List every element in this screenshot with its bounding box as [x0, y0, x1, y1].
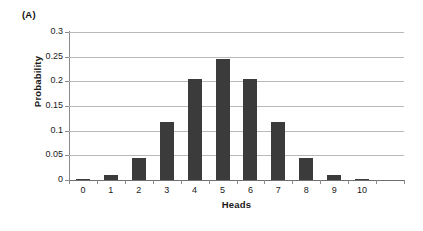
bar — [188, 79, 202, 180]
x-axis-tick — [181, 180, 182, 184]
x-axis-tick-label: 7 — [276, 185, 281, 195]
x-axis-tick — [125, 180, 126, 184]
x-axis-title: Heads — [69, 199, 404, 210]
y-axis-tick-label: 0.3 — [50, 26, 63, 36]
x-axis-tick — [209, 180, 210, 184]
bar-slot — [181, 32, 209, 180]
x-axis-tick — [404, 180, 405, 184]
x-axis-tick — [348, 180, 349, 184]
y-axis-tick-labels: 00.050.10.150.20.250.3 — [0, 0, 63, 231]
bar-slot — [376, 32, 404, 180]
bar — [132, 158, 146, 180]
x-axis-tick-label: 6 — [248, 185, 253, 195]
y-axis-tick — [65, 131, 69, 132]
bar-slot — [348, 32, 376, 180]
plot-area — [69, 32, 404, 180]
y-axis-tick-label: 0 — [58, 174, 63, 184]
y-axis-tick — [65, 180, 69, 181]
bar — [216, 59, 230, 180]
bar — [243, 79, 257, 180]
x-axis-tick-label: 2 — [136, 185, 141, 195]
x-axis-tick-label: 1 — [108, 185, 113, 195]
x-axis-tick — [376, 180, 377, 184]
y-axis-tick-label: 0.2 — [50, 75, 63, 85]
figure-panel-a: (A) Probability 00.050.10.150.20.250.3 0… — [0, 0, 423, 231]
bar — [160, 122, 174, 180]
x-axis-tick — [237, 180, 238, 184]
bar-slot — [320, 32, 348, 180]
bar-slot — [237, 32, 265, 180]
y-axis-tick-label: 0.25 — [45, 51, 63, 61]
x-axis-tick-label: 10 — [357, 185, 367, 195]
x-axis-tick-labels: 012345678910 — [69, 185, 404, 199]
x-axis-tick-label: 8 — [304, 185, 309, 195]
y-axis-tick-label: 0.15 — [45, 100, 63, 110]
y-axis-tick — [65, 155, 69, 156]
bar-slot — [264, 32, 292, 180]
y-axis-tick — [65, 32, 69, 33]
x-axis-tick-label: 4 — [192, 185, 197, 195]
x-axis-tick — [97, 180, 98, 184]
x-axis-tick-label: 5 — [220, 185, 225, 195]
x-axis-tick-label: 3 — [164, 185, 169, 195]
bar-slot — [125, 32, 153, 180]
bar-slot — [97, 32, 125, 180]
bar — [299, 158, 313, 180]
y-axis-tick — [65, 106, 69, 107]
bar-slot — [153, 32, 181, 180]
x-axis-tick-label: 0 — [80, 185, 85, 195]
y-axis-tick-label: 0.05 — [45, 149, 63, 159]
bar — [271, 122, 285, 180]
x-axis-tick — [69, 180, 70, 184]
x-axis-tick — [264, 180, 265, 184]
y-axis-tick — [65, 57, 69, 58]
x-axis-tick — [320, 180, 321, 184]
bar-slot — [292, 32, 320, 180]
y-axis-tick-label: 0.1 — [50, 125, 63, 135]
x-axis-tick — [292, 180, 293, 184]
x-axis-tick-label: 9 — [332, 185, 337, 195]
bar-slot — [209, 32, 237, 180]
y-axis-tick — [65, 81, 69, 82]
x-axis-tick — [153, 180, 154, 184]
bar-slot — [69, 32, 97, 180]
